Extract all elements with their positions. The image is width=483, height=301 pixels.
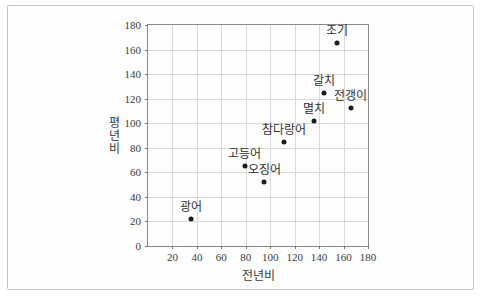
point-layer: 광어고등어오징어참다랑어멸치갈치전갱이조기 [148, 25, 368, 246]
y-tick-label: 20 [130, 216, 141, 227]
data-point [312, 118, 317, 123]
y-tick-label: 140 [125, 69, 142, 80]
data-point [281, 139, 286, 144]
y-tick-label: 120 [125, 93, 142, 104]
data-point [348, 106, 353, 111]
x-tick-mark [172, 246, 173, 249]
y-tick-label: 60 [130, 167, 141, 178]
y-tick-label: 80 [130, 142, 141, 153]
x-tick-mark [197, 246, 198, 249]
y-tick-label: 160 [125, 44, 142, 55]
data-point-label: 멸치 [303, 103, 325, 115]
y-tick-label: 180 [125, 20, 142, 31]
screenshot-canvas: 평년비 전년비 20406080100120140160180020406080… [0, 0, 483, 301]
data-point-label: 전갱이 [334, 90, 367, 102]
x-tick-label: 20 [167, 252, 178, 263]
data-point [242, 164, 247, 169]
x-tick-label: 40 [191, 252, 202, 263]
x-tick-label: 140 [311, 252, 328, 263]
x-tick-mark [270, 246, 271, 249]
data-point [188, 216, 193, 221]
data-point-label: 갈치 [313, 75, 335, 87]
x-tick-mark [368, 246, 369, 249]
data-point-label: 오징어 [248, 164, 281, 176]
x-tick-label: 160 [335, 252, 352, 263]
x-tick-mark [295, 246, 296, 249]
x-tick-mark [319, 246, 320, 249]
x-tick-mark [221, 246, 222, 249]
y-tick-label: 0 [136, 241, 142, 252]
y-tick-label: 100 [125, 118, 142, 129]
data-point [335, 41, 340, 46]
x-tick-label: 80 [240, 252, 251, 263]
figure-frame: 평년비 전년비 20406080100120140160180020406080… [7, 5, 474, 290]
x-tick-mark [246, 246, 247, 249]
data-point-label: 조기 [326, 25, 348, 37]
data-point-label: 광어 [180, 201, 202, 213]
y-axis-title: 평년비 [105, 116, 122, 155]
scatter-plot-area: 2040608010012014016018002040608010012014… [147, 24, 369, 247]
x-tick-label: 180 [360, 252, 377, 263]
x-tick-label: 60 [216, 252, 227, 263]
y-tick-label: 40 [130, 191, 141, 202]
data-point [262, 180, 267, 185]
x-tick-label: 100 [262, 252, 279, 263]
x-axis-title: 전년비 [242, 266, 275, 284]
y-tick-mark [145, 246, 148, 247]
data-point-label: 고등어 [228, 148, 261, 160]
data-point [322, 90, 327, 95]
x-tick-label: 120 [286, 252, 303, 263]
x-tick-mark [344, 246, 345, 249]
data-point-label: 참다랑어 [262, 124, 306, 136]
